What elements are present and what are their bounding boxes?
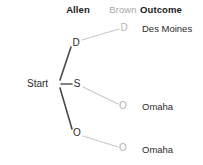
column-header-brown: Brown bbox=[109, 5, 136, 15]
column-header-allen: Allen bbox=[66, 5, 90, 15]
outcome-omaha-lower: Omaha bbox=[142, 145, 173, 155]
node-brown-d: D bbox=[120, 23, 127, 33]
node-start: Start bbox=[27, 79, 48, 89]
outcome-omaha-upper: Omaha bbox=[142, 102, 173, 112]
edge-allen-s-to-brown-o bbox=[83, 87, 118, 104]
edge-start-to-allen-d bbox=[60, 47, 71, 80]
edge-start-to-allen-o bbox=[60, 88, 72, 129]
edge-allen-o-to-brown-o bbox=[83, 136, 118, 147]
node-allen-o: O bbox=[73, 128, 81, 138]
node-allen-d: D bbox=[72, 38, 79, 48]
outcome-des-moines: Des Moines bbox=[142, 24, 192, 34]
decision-tree-diagram: Allen Brown Outcome Start D S O D O O De… bbox=[0, 0, 203, 165]
column-header-outcome: Outcome bbox=[140, 5, 182, 15]
edge-allen-d-to-brown-d bbox=[82, 29, 119, 40]
node-brown-o-upper: O bbox=[119, 101, 127, 111]
node-brown-o-lower: O bbox=[119, 143, 127, 153]
node-allen-s: S bbox=[74, 79, 81, 89]
